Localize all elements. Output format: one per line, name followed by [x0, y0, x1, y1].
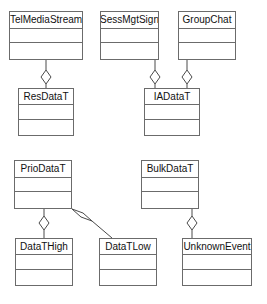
uml-class-diagram: TelMediaStream SessMgtSign GroupChat Res… [0, 0, 267, 304]
class-attributes-unknownevent [183, 255, 251, 269]
class-node-sessmgtsign[interactable]: SessMgtSign [100, 11, 159, 60]
class-node-telmediastream[interactable]: TelMediaStream [9, 11, 83, 60]
class-node-groupchat[interactable]: GroupChat [178, 11, 236, 60]
class-operations-telmediastream [10, 43, 82, 59]
class-operations-datatlow [100, 270, 156, 285]
class-node-unknownevent[interactable]: UnknownEvent [182, 238, 252, 286]
class-node-datathigh[interactable]: DataTHigh [15, 238, 73, 286]
class-name-bulkdatat: BulkDataT [142, 161, 198, 178]
class-operations-iadatat [145, 120, 199, 135]
class-attributes-iadatat [145, 105, 199, 119]
class-name-telmediastream: TelMediaStream [10, 12, 82, 29]
class-name-iadatat: IADataT [145, 89, 199, 105]
class-node-layer: TelMediaStream SessMgtSign GroupChat Res… [0, 0, 267, 304]
class-operations-sessmgtsign [101, 43, 158, 59]
class-operations-groupchat [179, 43, 235, 59]
class-attributes-telmediastream [10, 29, 82, 44]
class-node-datatlow[interactable]: DataTLow [99, 238, 157, 286]
class-attributes-resdatat [19, 105, 73, 119]
class-attributes-groupchat [179, 29, 235, 44]
class-name-sessmgtsign: SessMgtSign [101, 12, 158, 29]
class-operations-unknownevent [183, 270, 251, 285]
class-name-resdatat: ResDataT [19, 89, 73, 105]
class-name-unknownevent: UnknownEvent [183, 239, 251, 255]
class-attributes-priodatat [15, 178, 71, 193]
class-attributes-datatlow [100, 255, 156, 269]
class-node-bulkdatat[interactable]: BulkDataT [141, 160, 199, 209]
class-node-iadatat[interactable]: IADataT [144, 88, 200, 136]
class-operations-priodatat [15, 192, 71, 208]
class-attributes-bulkdatat [142, 178, 198, 193]
class-operations-bulkdatat [142, 192, 198, 208]
class-attributes-sessmgtsign [101, 29, 158, 44]
class-node-priodatat[interactable]: PrioDataT [14, 160, 72, 209]
class-name-groupchat: GroupChat [179, 12, 235, 29]
class-attributes-datathigh [16, 255, 72, 269]
class-operations-datathigh [16, 270, 72, 285]
class-name-priodatat: PrioDataT [15, 161, 71, 178]
class-name-datatlow: DataTLow [100, 239, 156, 255]
class-name-datathigh: DataTHigh [16, 239, 72, 255]
class-node-resdatat[interactable]: ResDataT [18, 88, 74, 136]
class-operations-resdatat [19, 120, 73, 135]
